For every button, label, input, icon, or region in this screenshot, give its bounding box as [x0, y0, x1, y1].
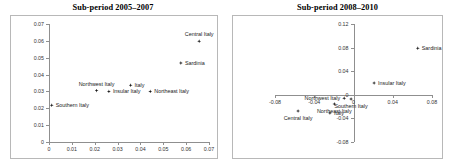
data-point [129, 83, 133, 87]
y-axis-tick [46, 91, 49, 92]
x-axis-tick [118, 142, 119, 145]
data-point-label: Northeast Italy [154, 88, 189, 94]
x-axis-tick-label: 0.02 [90, 146, 100, 152]
y-axis-line [49, 24, 50, 142]
y-axis-tick-label: 0.08 [318, 45, 349, 51]
y-axis-tick-label: -0.04 [318, 115, 349, 121]
panel-sub-period-2005-2007: Sub-period 2005–2007 00.010.020.030.040.… [0, 0, 226, 167]
data-point [107, 89, 111, 93]
plot-area-right: -0.08-0.0400.040.080.12-0.08-0.0400.040.… [232, 15, 443, 159]
y-axis-tick-label: 0.04 [318, 68, 349, 74]
x-axis-tick-label: -0.08 [269, 99, 281, 105]
x-axis-tick [163, 142, 164, 145]
y-axis-tick-label: 0.06 [13, 38, 44, 44]
y-axis-tick [46, 24, 49, 25]
data-point-label: Sardinia [185, 60, 205, 66]
x-axis-tick [140, 142, 141, 145]
y-axis-tick-label: 0.04 [13, 72, 44, 78]
panel-title-left: Sub-period 2005–2007 [0, 3, 226, 12]
x-axis-tick [432, 95, 433, 98]
y-axis-tick [46, 125, 49, 126]
x-axis-tick-label: 0 [48, 146, 51, 152]
x-axis-tick-label: 0.06 [181, 146, 191, 152]
data-point [372, 81, 376, 85]
x-axis-line [49, 142, 209, 143]
x-axis-tick [209, 142, 210, 145]
y-axis-tick-label: 0.12 [318, 21, 349, 27]
x-axis-tick [95, 142, 96, 145]
x-axis-tick [275, 95, 276, 98]
data-point-label: Italy [135, 82, 145, 88]
data-point-label: Southern Italy [56, 102, 89, 108]
data-point-label: Northwest Italy [305, 95, 341, 101]
y-axis-tick [351, 48, 354, 49]
y-axis-tick [46, 108, 49, 109]
y-axis-tick-label: 0.01 [13, 122, 44, 128]
x-axis-tick [49, 142, 50, 145]
y-axis-tick-label: -0.08 [318, 139, 349, 145]
data-point-label: Insular Italy [113, 88, 141, 94]
plot-area-left: 00.010.020.030.040.050.060.0700.010.020.… [10, 15, 218, 159]
y-axis-tick-label: 0.05 [13, 55, 44, 61]
data-point-label: Sardinia [422, 45, 442, 51]
data-point-label: Central Italy [284, 115, 313, 121]
y-axis-tick [46, 58, 49, 59]
x-axis-tick [186, 142, 187, 145]
x-axis-tick [354, 95, 355, 98]
data-point-label: Central Italy [185, 31, 214, 37]
x-axis-tick-label: 0.07 [204, 146, 214, 152]
y-axis-line [354, 24, 355, 142]
y-axis-tick [351, 142, 354, 143]
y-axis-tick [351, 71, 354, 72]
x-axis-tick-label: 0.04 [135, 146, 145, 152]
x-axis-tick-label: 0.05 [158, 146, 168, 152]
data-point [95, 89, 99, 93]
data-point-label: Insular Italy [378, 80, 406, 86]
data-point-label: Northeast Italy [317, 108, 352, 114]
data-point [416, 46, 420, 50]
x-axis-tick [393, 95, 394, 98]
data-point [197, 39, 201, 43]
data-point [179, 61, 183, 65]
panel-sub-period-2008-2010: Sub-period 2008–2010 -0.08-0.0400.040.08… [226, 0, 449, 167]
y-axis-tick [46, 41, 49, 42]
panel-title-right: Sub-period 2008–2010 [226, 3, 449, 12]
y-axis-tick [46, 75, 49, 76]
y-axis-tick [351, 24, 354, 25]
x-axis-tick-label: 0.08 [427, 99, 437, 105]
y-axis-tick-label: 0.07 [13, 21, 44, 27]
y-axis-tick-label: 0.02 [13, 105, 44, 111]
x-axis-tick-label: 0.01 [67, 146, 77, 152]
y-axis-tick [351, 118, 354, 119]
x-axis-tick-label: 0.04 [388, 99, 398, 105]
y-axis-tick-label: 0.03 [13, 88, 44, 94]
x-axis-tick [72, 142, 73, 145]
data-point [148, 89, 152, 93]
y-axis-tick-label: 0 [13, 139, 44, 145]
data-point-label: Northwest Italy [79, 81, 115, 87]
x-axis-tick-label: 0.03 [112, 146, 122, 152]
data-point [50, 103, 54, 107]
data-point [296, 109, 300, 113]
scatter-plot-figure: Sub-period 2005–2007 00.010.020.030.040.… [0, 0, 449, 167]
